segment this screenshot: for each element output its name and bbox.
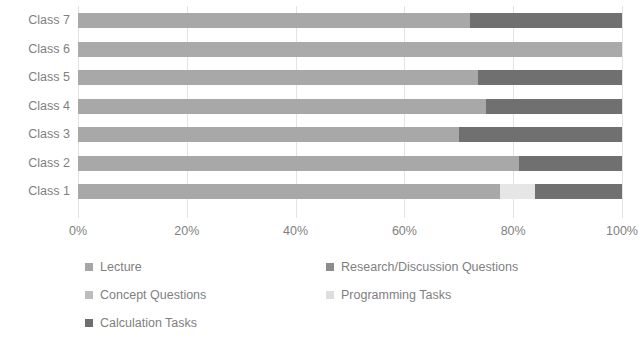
legend-label-programming-tasks: Programming Tasks [341, 288, 451, 302]
bar-row [78, 184, 622, 199]
y-axis-label-class-3: Class 3 [4, 127, 70, 142]
legend-item-calculation-tasks[interactable]: Calculation Tasks [85, 316, 197, 330]
legend-item-research-discussion-questions[interactable]: Research/Discussion Questions [326, 260, 518, 274]
bar-segment-calculation-tasks [470, 13, 622, 28]
bar-segment-calculation-tasks [459, 127, 622, 142]
bar-segment-programming-tasks [500, 184, 535, 199]
legend-swatch-programming-tasks [326, 291, 334, 299]
stacked-bar [78, 127, 622, 142]
bar-segment-calculation-tasks [535, 184, 622, 199]
y-axis-label-class-5: Class 5 [4, 70, 70, 85]
bar-row [78, 127, 622, 142]
y-axis-label-class-2: Class 2 [4, 156, 70, 171]
stacked-bar [78, 42, 622, 57]
bar-segment-lecture [78, 184, 500, 199]
chart-legend: LectureResearch/Discussion QuestionsConc… [0, 256, 642, 348]
x-axis-tick-0: 0% [69, 224, 87, 238]
bar-segment-lecture [78, 13, 470, 28]
stacked-bar [78, 184, 622, 199]
plot-area [78, 6, 622, 218]
bar-row [78, 156, 622, 171]
bar-segment-lecture [78, 42, 622, 57]
legend-label-research-discussion-questions: Research/Discussion Questions [341, 260, 518, 274]
x-axis-tick-20: 20% [174, 224, 199, 238]
x-axis-tick-60: 60% [392, 224, 417, 238]
x-axis-tick-40: 40% [283, 224, 308, 238]
bar-row [78, 70, 622, 85]
bar-row [78, 99, 622, 114]
stacked-bar-chart: Class 7Class 6Class 5Class 4Class 3Class… [0, 0, 642, 349]
stacked-bar [78, 99, 622, 114]
stacked-bar [78, 13, 622, 28]
y-axis-label-class-1: Class 1 [4, 184, 70, 199]
bar-row [78, 42, 622, 57]
legend-swatch-lecture [85, 263, 93, 271]
x-axis-tick-80: 80% [501, 224, 526, 238]
legend-label-lecture: Lecture [100, 260, 142, 274]
bar-segment-calculation-tasks [478, 70, 622, 85]
x-axis-tick-100: 100% [606, 224, 638, 238]
bar-segment-lecture [78, 99, 486, 114]
legend-swatch-concept-questions [85, 291, 93, 299]
y-axis-label-class-4: Class 4 [4, 99, 70, 114]
bar-row [78, 13, 622, 28]
y-axis-label-class-7: Class 7 [4, 13, 70, 28]
bar-segment-calculation-tasks [519, 156, 622, 171]
stacked-bar [78, 156, 622, 171]
bar-segment-calculation-tasks [486, 99, 622, 114]
legend-swatch-research-discussion-questions [326, 263, 334, 271]
bar-segment-lecture [78, 127, 459, 142]
bar-segment-lecture [78, 70, 478, 85]
legend-label-concept-questions: Concept Questions [100, 288, 206, 302]
stacked-bar [78, 70, 622, 85]
legend-item-lecture[interactable]: Lecture [85, 260, 142, 274]
legend-item-concept-questions[interactable]: Concept Questions [85, 288, 206, 302]
y-axis-label-class-6: Class 6 [4, 42, 70, 57]
gridline-100 [622, 6, 623, 218]
legend-label-calculation-tasks: Calculation Tasks [100, 316, 197, 330]
legend-swatch-calculation-tasks [85, 319, 93, 327]
legend-item-programming-tasks[interactable]: Programming Tasks [326, 288, 451, 302]
bar-segment-lecture [78, 156, 519, 171]
x-axis: 0%20%40%60%80%100% [78, 220, 622, 244]
